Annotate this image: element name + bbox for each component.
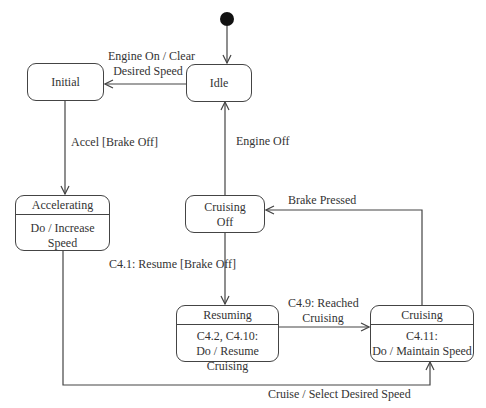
label-line: C4.9: Reached xyxy=(288,296,358,311)
state-name: Accelerating xyxy=(16,196,109,215)
state-resuming: Resuming C4.2, C4.10: Do / Resume Cruisi… xyxy=(176,305,279,362)
state-initial: Initial xyxy=(27,63,104,101)
label-idle-to-initial: Engine On / Clear Desired Speed xyxy=(108,49,188,79)
label-line: Engine On / Clear xyxy=(108,49,188,64)
label-line: Cruising xyxy=(288,311,358,326)
initial-node-icon xyxy=(220,12,234,26)
state-activity-line2: Do / Maintain Speed xyxy=(371,344,473,359)
label-line: Desired Speed xyxy=(108,64,188,79)
state-name: Initial xyxy=(51,75,80,90)
label-resuming-to-cruising: C4.9: Reached Cruising xyxy=(288,296,358,326)
state-accelerating: Accelerating Do / Increase Speed xyxy=(15,195,110,251)
state-name: Cruising xyxy=(371,306,473,325)
state-cruising: Cruising C4.11: Do / Maintain Speed xyxy=(370,305,474,362)
state-name: Resuming xyxy=(177,306,278,325)
state-idle: Idle xyxy=(186,64,252,102)
label-initial-to-accelerating: Accel [Brake Off] xyxy=(71,135,158,150)
label-cruising-off-to-resuming: C4.1: Resume [Brake Off] xyxy=(109,257,236,272)
state-activity-line1: C4.2, C4.10: xyxy=(177,329,278,344)
label-cruising-off-to-idle: Engine Off xyxy=(236,134,289,149)
state-activity-line1: C4.11: xyxy=(371,329,473,344)
label-cruising-to-cruising-off: Brake Pressed xyxy=(288,193,356,208)
state-name-line2: Off xyxy=(186,215,264,230)
state-cruising-off: Cruising Off xyxy=(185,195,265,233)
state-name-line1: Cruising xyxy=(186,200,264,215)
label-accelerating-to-cruising: Cruise / Select Desired Speed xyxy=(268,387,411,402)
state-activity-line2: Do / Resume Cruising xyxy=(177,344,278,374)
state-activity: Do / Increase Speed xyxy=(16,215,109,251)
state-name: Idle xyxy=(210,76,229,91)
